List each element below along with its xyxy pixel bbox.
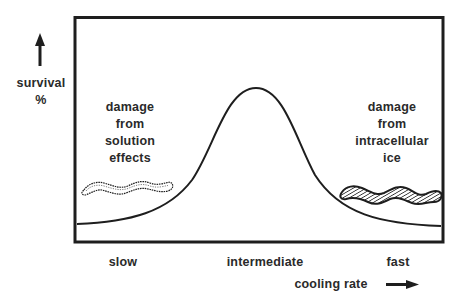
right-arrow-icon (386, 280, 419, 289)
annotation-line: damage (342, 99, 442, 116)
annotation-line: effects (92, 150, 168, 167)
annotation-line: from (92, 116, 168, 133)
solution-effects-band-icon (82, 182, 173, 195)
y-axis-label-unit: % (10, 92, 72, 109)
solution-effects-annotation: damage from solution effects (92, 99, 168, 167)
x-axis-label: cooling rate (286, 276, 376, 293)
intracellular-ice-band-icon (340, 186, 441, 204)
y-axis-label: survival % (10, 75, 72, 109)
annotation-line: intracellular (342, 133, 442, 150)
annotation-line: ice (342, 150, 442, 167)
up-arrow-icon (35, 33, 45, 66)
y-axis-label-text: survival (10, 75, 72, 92)
annotation-line: from (342, 116, 442, 133)
annotation-line: damage (92, 99, 168, 116)
annotation-line: solution (92, 133, 168, 150)
x-tick-intermediate: intermediate (205, 254, 325, 271)
x-tick-slow: slow (100, 254, 146, 271)
intracellular-ice-annotation: damage from intracellular ice (342, 99, 442, 167)
x-tick-fast: fast (374, 254, 422, 271)
